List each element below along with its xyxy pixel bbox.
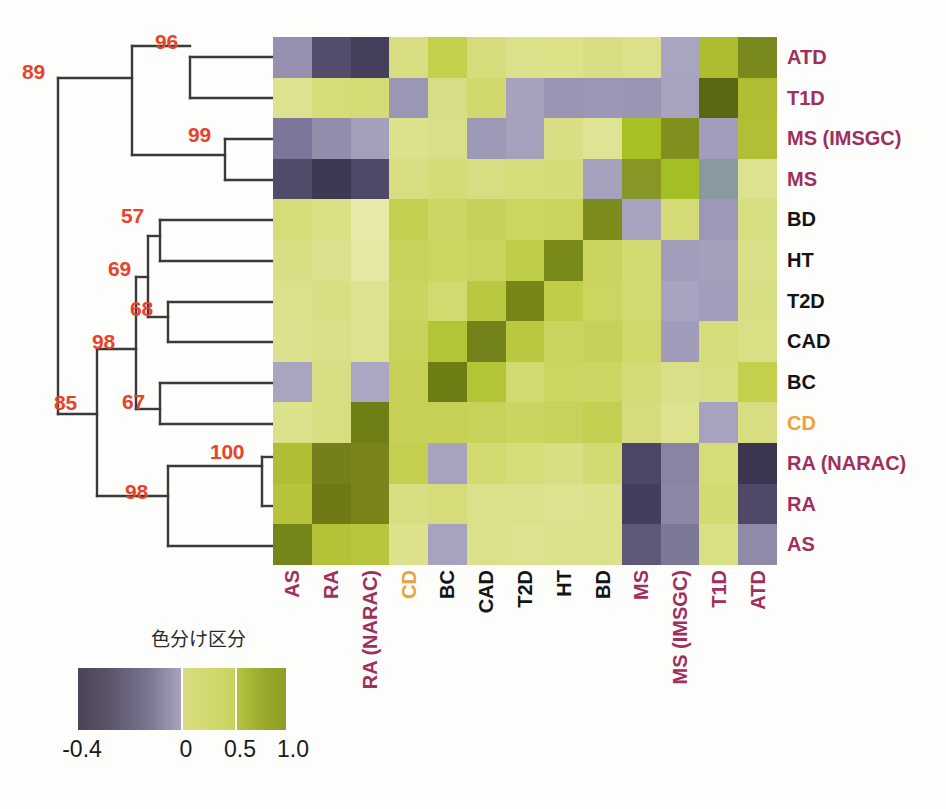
column-label: ATD xyxy=(746,570,769,610)
heatmap-cell xyxy=(312,78,351,119)
heatmap-cell xyxy=(351,402,390,443)
heatmap-cell xyxy=(389,240,428,281)
heatmap-cell xyxy=(467,199,506,240)
heatmap-cell xyxy=(738,159,777,200)
heatmap-cell xyxy=(506,484,545,525)
heatmap-cell xyxy=(661,321,700,362)
heatmap-cell xyxy=(312,199,351,240)
heatmap-cell xyxy=(428,240,467,281)
bootstrap-value-67: 67 xyxy=(122,390,145,414)
heatmap-row xyxy=(273,118,777,159)
heatmap-cell xyxy=(699,443,738,484)
heatmap-cell xyxy=(312,321,351,362)
heatmap-cell xyxy=(389,524,428,565)
heatmap-cell xyxy=(661,159,700,200)
heatmap-cell xyxy=(467,159,506,200)
heatmap-cell xyxy=(273,524,312,565)
heatmap-cell xyxy=(389,402,428,443)
heatmap-cell xyxy=(273,402,312,443)
heatmap-cell xyxy=(467,484,506,525)
heatmap-cell xyxy=(699,240,738,281)
colorbar-divider-1 xyxy=(235,668,237,730)
heatmap-cell xyxy=(506,281,545,322)
heatmap-cell xyxy=(273,118,312,159)
heatmap-cell xyxy=(583,78,622,119)
heatmap-cell xyxy=(544,524,583,565)
column-label-slot: MS (IMSGC) xyxy=(661,568,700,728)
heatmap-cell xyxy=(506,37,545,78)
heatmap-cell xyxy=(544,362,583,403)
heatmap-cell xyxy=(428,362,467,403)
heatmap-cell xyxy=(544,37,583,78)
colorbar-tick-0: -0.4 xyxy=(62,736,102,763)
heatmap-cell xyxy=(428,199,467,240)
row-label: CD xyxy=(787,403,816,444)
heatmap-cell xyxy=(699,199,738,240)
bootstrap-value-100: 100 xyxy=(210,440,244,464)
heatmap-cell xyxy=(738,484,777,525)
heatmap-cell xyxy=(738,524,777,565)
column-label: HT xyxy=(552,570,575,597)
heatmap-cell xyxy=(312,159,351,200)
heatmap-row xyxy=(273,78,777,119)
heatmap-cell xyxy=(273,281,312,322)
heatmap-cell xyxy=(661,524,700,565)
colorbar-tick-1: 0 xyxy=(180,736,193,763)
heatmap-cell xyxy=(351,37,390,78)
heatmap-cell xyxy=(622,443,661,484)
heatmap-cell xyxy=(351,524,390,565)
heatmap-cell xyxy=(699,524,738,565)
heatmap-cell xyxy=(389,78,428,119)
heatmap-cell xyxy=(622,281,661,322)
heatmap-cell xyxy=(312,118,351,159)
column-label-slot: BC xyxy=(428,568,467,728)
heatmap-cell xyxy=(622,78,661,119)
heatmap-cell xyxy=(351,78,390,119)
heatmap-cell xyxy=(544,443,583,484)
heatmap-cell xyxy=(467,402,506,443)
heatmap-cell xyxy=(389,199,428,240)
heatmap-cell xyxy=(544,199,583,240)
heatmap-cell xyxy=(583,484,622,525)
heatmap-cell xyxy=(467,321,506,362)
heatmap-cell xyxy=(661,199,700,240)
heatmap-cell xyxy=(273,37,312,78)
heatmap-cell xyxy=(661,37,700,78)
row-label: T2D xyxy=(787,281,825,322)
heatmap-cell xyxy=(544,484,583,525)
column-label-slot: T2D xyxy=(506,568,545,728)
row-label: BD xyxy=(787,199,816,240)
column-label-slot: BD xyxy=(583,568,622,728)
heatmap-cell xyxy=(428,321,467,362)
heatmap-cell xyxy=(699,484,738,525)
colorbar-tick-2: 0.5 xyxy=(224,736,256,763)
heatmap-row xyxy=(273,199,777,240)
heatmap-cell xyxy=(738,240,777,281)
heatmap-cell xyxy=(661,402,700,443)
bootstrap-value-98-upper: 98 xyxy=(92,330,115,354)
heatmap-cell xyxy=(583,281,622,322)
colorbar-legend: 色分け区分 -0.4 0 0.5 1.0 xyxy=(62,624,362,784)
heatmap-row xyxy=(273,402,777,443)
heatmap-cell xyxy=(389,484,428,525)
heatmap-row xyxy=(273,37,777,78)
heatmap-cell xyxy=(428,524,467,565)
row-label: HT xyxy=(787,240,814,281)
heatmap-cell xyxy=(312,37,351,78)
heatmap-cell xyxy=(699,37,738,78)
row-label: RA xyxy=(787,484,816,525)
heatmap-cell xyxy=(273,443,312,484)
heatmap-cell xyxy=(273,240,312,281)
row-label: T1D xyxy=(787,78,825,119)
bootstrap-value-99: 99 xyxy=(188,123,211,147)
heatmap-cell xyxy=(506,524,545,565)
heatmap-cell xyxy=(544,240,583,281)
heatmap-cell xyxy=(738,402,777,443)
heatmap-cell xyxy=(661,362,700,403)
row-label: MS xyxy=(787,159,817,200)
heatmap-cell xyxy=(583,524,622,565)
bootstrap-value-57: 57 xyxy=(121,204,144,228)
heatmap-cell xyxy=(622,484,661,525)
heatmap-cell xyxy=(661,443,700,484)
heatmap-cell xyxy=(351,443,390,484)
